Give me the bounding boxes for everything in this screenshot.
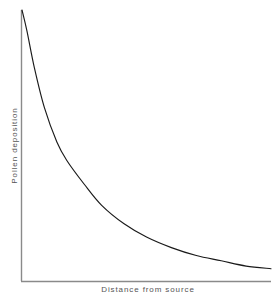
chart-container: Pollen deposition Distance from source bbox=[0, 0, 276, 304]
y-axis-label: Pollen deposition bbox=[10, 96, 19, 196]
x-axis-label: Distance from source bbox=[0, 285, 276, 294]
pollen-deposition-curve bbox=[22, 10, 271, 269]
chart-plot-area bbox=[0, 0, 276, 304]
